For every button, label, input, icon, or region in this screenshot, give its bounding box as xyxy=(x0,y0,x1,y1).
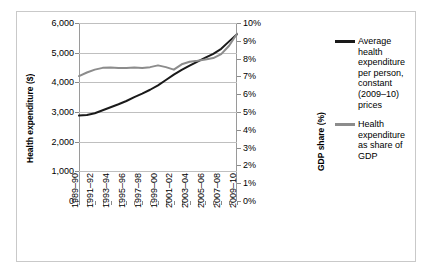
y-tick-mark-right xyxy=(237,76,241,77)
y-tick-label-right: 3% xyxy=(243,143,256,153)
plot-area: 01,0002,0003,0004,0005,0006,000 0%1%2%3%… xyxy=(79,23,237,201)
y-tick-label-left: 6,000 xyxy=(51,18,74,28)
x-tick-label: 1989–90 xyxy=(70,173,80,208)
series-layer xyxy=(79,23,237,201)
y-tick-mark-right xyxy=(237,59,241,60)
y-tick-label-right: 2% xyxy=(243,160,256,170)
y-tick-label-right: 10% xyxy=(243,18,261,28)
series-line xyxy=(79,34,237,115)
y-tick-mark-right xyxy=(237,165,241,166)
y-tick-mark-right xyxy=(237,112,241,113)
legend-entry[interactable]: Health expenditure as share of GDP xyxy=(335,119,413,161)
chart-legend: Average health expenditure per person, c… xyxy=(335,36,413,171)
y-tick-label-right: 0% xyxy=(243,196,256,206)
y-tick-label-right: 5% xyxy=(243,107,256,117)
y-tick-label-right: 8% xyxy=(243,54,256,64)
y-tick-label-right: 9% xyxy=(243,36,256,46)
y-tick-label-right: 1% xyxy=(243,178,256,188)
y-tick-mark-right xyxy=(237,41,241,42)
legend-label: Average health expenditure per person, c… xyxy=(358,36,413,110)
legend-entry[interactable]: Average health expenditure per person, c… xyxy=(335,36,413,110)
y-tick-label-left: 4,000 xyxy=(51,77,74,87)
y-axis-left-title: Health expenditure ($) xyxy=(23,38,37,198)
y-tick-mark-right xyxy=(237,148,241,149)
legend-label: Health expenditure as share of GDP xyxy=(358,119,413,161)
chart-figure: Health expenditure ($) GDP share (%) 01,… xyxy=(16,11,416,262)
y-tick-label-left: 3,000 xyxy=(51,107,74,117)
y-tick-label-right: 6% xyxy=(243,89,256,99)
y-axis-right-title: GDP share (%) xyxy=(314,82,328,202)
y-tick-label-right: 7% xyxy=(243,71,256,81)
legend-swatch-icon xyxy=(335,40,355,43)
y-tick-label-left: 2,000 xyxy=(51,137,74,147)
y-tick-mark-right xyxy=(237,130,241,131)
y-tick-label-left: 5,000 xyxy=(51,48,74,58)
y-tick-label-right: 4% xyxy=(243,125,256,135)
y-tick-mark-right xyxy=(237,94,241,95)
legend-swatch-icon xyxy=(335,123,355,126)
y-tick-mark-right xyxy=(237,23,241,24)
